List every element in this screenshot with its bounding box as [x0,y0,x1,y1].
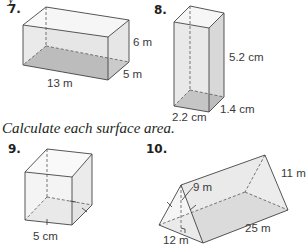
problem-7-width-label: 5 m [123,68,142,80]
problem-9-number: 9. [8,142,21,156]
fig8-right-face [209,13,224,112]
problem-8-number: 8. [154,3,167,17]
problem-8-width-label: 1.4 cm [220,103,255,115]
problem-10-length-label: 25 m [245,222,271,234]
problem-8-height-label: 5.2 cm [229,51,264,63]
problem-10-triangle-base-label: 12 m [163,234,189,246]
figure-7-rectangular-prism [23,7,129,80]
problem-10-slant-side-label: 11 m [281,167,306,179]
figure-9-cube [25,149,92,225]
problem-7-height-label: 6 m [133,36,152,48]
fig8-front-face [174,22,209,112]
problem-8-length-label: 2.2 cm [172,111,207,123]
problem-7-length-label: 13 m [47,77,73,89]
fig9-front-face [25,172,72,225]
instruction-text: Calculate each surface area. [2,120,175,137]
problem-9-edge-label: 5 cm [33,230,58,242]
figure-8-rectangular-prism [174,6,224,112]
problem-10-triangle-height-label: 9 m [193,181,212,193]
problem-7-number: 7. [8,2,21,16]
problem-10-number: 10. [146,142,167,156]
